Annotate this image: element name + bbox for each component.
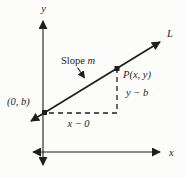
slope-diagram-figure: y x L Slope m P(x, y) y − b x − 0 (0, b): [0, 0, 186, 178]
rise-label: y − b: [125, 87, 148, 98]
rise-run-dashed-lines: [49, 71, 117, 113]
slope-variable: m: [88, 55, 96, 66]
x-axis-label: x: [168, 147, 174, 158]
slope-word: Slope: [61, 55, 88, 66]
point-p-label: P(x, y): [122, 69, 151, 81]
line-l: [31, 42, 160, 121]
diagram-svg: y x L Slope m P(x, y) y − b x − 0 (0, b): [0, 0, 186, 178]
slope-label: Slope m: [61, 55, 96, 66]
y-axis-label: y: [40, 3, 46, 14]
point-p-marker: [115, 66, 120, 71]
y-intercept-label: (0, b): [7, 96, 30, 108]
line-l-label: L: [166, 28, 173, 39]
slope-callout-arrow: [78, 68, 85, 79]
run-label: x − 0: [66, 118, 90, 129]
intercept-point-marker: [42, 110, 47, 115]
